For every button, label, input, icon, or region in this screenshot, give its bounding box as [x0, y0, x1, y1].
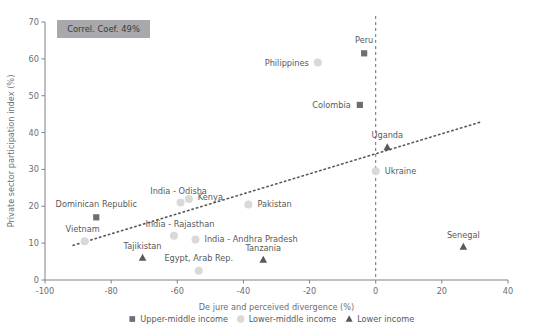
data-point-label: Vietnam: [66, 224, 100, 234]
x-tick-label: 40: [503, 286, 513, 296]
data-point-label: Egypt, Arab Rep.: [164, 253, 233, 263]
data-point-label: Pakistan: [257, 199, 291, 209]
y-tick-label: 0: [34, 275, 39, 285]
data-point-label: Philippines: [265, 58, 309, 68]
x-axis-title: De jure and perceived divergence (%): [199, 302, 354, 312]
x-tick-label: -80: [104, 286, 117, 296]
data-point-label: Peru: [355, 35, 373, 45]
data-point-label: India - Rajasthan: [146, 219, 215, 229]
trend-line: [73, 122, 480, 245]
data-point-label: Ukraine: [385, 166, 417, 176]
data-point-circle-marker: [244, 200, 252, 208]
data-point-square-marker: [93, 214, 99, 220]
data-point-label: Uganda: [371, 130, 403, 140]
y-tick-label: 30: [29, 164, 39, 174]
x-tick-label: -40: [237, 286, 250, 296]
chart-canvas: 010203040506070-100-80-60-40-2002040De j…: [0, 0, 535, 336]
data-point-label: Tanzania: [244, 243, 281, 253]
legend-label: Lower-middle income: [249, 314, 337, 324]
y-tick-label: 10: [29, 238, 39, 248]
data-point-triangle-marker: [460, 243, 468, 250]
x-tick-label: -100: [36, 286, 55, 296]
x-tick-label: 20: [437, 286, 447, 296]
data-point-circle-marker: [372, 167, 380, 175]
correlation-annotation-label: Correl. Coef. 49%: [67, 24, 140, 34]
scatter-chart: 010203040506070-100-80-60-40-2002040De j…: [0, 0, 535, 336]
y-tick-label: 60: [29, 54, 39, 64]
data-point-circle-marker: [81, 237, 89, 245]
data-point-label: Colombia: [312, 100, 350, 110]
data-point-triangle-marker: [259, 256, 267, 263]
legend-label: Lower income: [357, 314, 414, 324]
y-tick-label: 20: [29, 201, 39, 211]
data-point-label: Senegal: [447, 230, 480, 240]
data-point-circle-marker: [195, 267, 203, 275]
data-point-circle-marker: [191, 235, 199, 243]
x-tick-label: -20: [303, 286, 316, 296]
data-point-square-marker: [357, 102, 363, 108]
y-tick-label: 70: [29, 17, 39, 27]
legend-triangle-triangle-marker: [346, 315, 353, 321]
data-point-circle-marker: [177, 199, 185, 207]
legend-label: Upper-middle income: [140, 314, 228, 324]
data-point-triangle-marker: [139, 254, 147, 261]
y-axis-title: Private sector participation index (%): [6, 75, 16, 228]
legend-square-square-marker: [129, 316, 135, 322]
data-point-circle-marker: [185, 195, 193, 203]
data-point-label: Dominican Republic: [56, 199, 137, 209]
data-point-triangle-marker: [383, 143, 391, 150]
legend-circle-circle-marker: [237, 315, 244, 322]
y-tick-label: 50: [29, 91, 39, 101]
data-point-label: India - Odisha: [150, 186, 207, 196]
x-tick-label: -60: [171, 286, 184, 296]
data-point-square-marker: [361, 50, 367, 56]
x-tick-label: 0: [373, 286, 378, 296]
y-tick-label: 40: [29, 128, 39, 138]
data-point-label: Tajikistan: [123, 241, 162, 251]
data-point-circle-marker: [170, 232, 178, 240]
data-point-circle-marker: [314, 59, 322, 67]
